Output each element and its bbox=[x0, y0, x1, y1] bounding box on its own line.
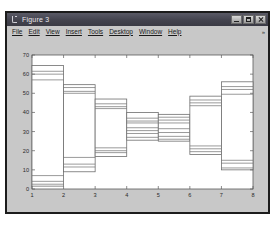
menu-item-label: Tools bbox=[88, 28, 103, 35]
boxplot-chart: 01020304050607012345678 bbox=[7, 37, 268, 212]
box-rect bbox=[158, 114, 190, 141]
title-bar[interactable]: Figure 3 bbox=[7, 13, 268, 27]
y-tick-label: 60 bbox=[23, 71, 29, 77]
minimize-button[interactable] bbox=[231, 15, 242, 24]
x-tick-label: 8 bbox=[251, 192, 254, 198]
box-5 bbox=[158, 114, 190, 141]
box-rect bbox=[32, 66, 64, 187]
box-3 bbox=[95, 99, 127, 156]
x-tick-label: 2 bbox=[62, 192, 65, 198]
menu-item-edit[interactable]: Edit bbox=[25, 28, 42, 36]
menu-item-label: View bbox=[46, 28, 60, 35]
menu-item-label: Window bbox=[139, 28, 162, 35]
y-tick-label: 40 bbox=[23, 109, 29, 115]
box-4 bbox=[127, 112, 159, 140]
y-tick-label: 30 bbox=[23, 129, 29, 135]
menu-item-label: Edit bbox=[28, 28, 39, 35]
y-tick-label: 0 bbox=[26, 186, 29, 192]
menu-item-desktop[interactable]: Desktop bbox=[106, 28, 136, 36]
maximize-icon bbox=[244, 16, 253, 23]
minimize-icon bbox=[232, 16, 241, 23]
box-1 bbox=[32, 66, 64, 187]
x-tick-label: 5 bbox=[157, 192, 160, 198]
x-tick-label: 6 bbox=[188, 192, 191, 198]
figure-canvas: 01020304050607012345678 bbox=[7, 37, 268, 212]
menu-item-insert[interactable]: Insert bbox=[63, 28, 85, 36]
box-rect bbox=[221, 82, 253, 170]
menu-item-file[interactable]: File bbox=[9, 28, 25, 36]
figure-window: Figure 3 File Edit View Insert Tools Des… bbox=[5, 11, 270, 214]
menu-item-view[interactable]: View bbox=[43, 28, 63, 36]
close-button[interactable] bbox=[255, 15, 266, 24]
y-tick-label: 20 bbox=[23, 148, 29, 154]
window-title: Figure 3 bbox=[22, 15, 231, 24]
close-icon bbox=[256, 16, 265, 23]
y-tick-label: 10 bbox=[23, 167, 29, 173]
menu-item-tools[interactable]: Tools bbox=[85, 28, 106, 36]
x-tick-label: 1 bbox=[30, 192, 33, 198]
menu-item-label: Desktop bbox=[109, 28, 133, 35]
y-tick-label: 70 bbox=[23, 52, 29, 58]
menu-item-label: Insert bbox=[66, 28, 82, 35]
box-7 bbox=[221, 82, 253, 170]
menu-item-window[interactable]: Window bbox=[136, 28, 165, 36]
box-2 bbox=[64, 85, 96, 172]
box-rect bbox=[127, 112, 159, 140]
box-6 bbox=[190, 96, 222, 154]
matlab-figure-icon bbox=[10, 15, 19, 24]
maximize-button[interactable] bbox=[243, 15, 254, 24]
x-tick-label: 7 bbox=[220, 192, 223, 198]
menu-item-label: File bbox=[12, 28, 22, 35]
box-rect bbox=[64, 85, 96, 172]
menu-item-help[interactable]: Help bbox=[165, 28, 184, 36]
menu-item-label: Help bbox=[168, 28, 181, 35]
x-tick-label: 3 bbox=[94, 192, 97, 198]
x-tick-label: 4 bbox=[125, 192, 128, 198]
y-tick-label: 50 bbox=[23, 90, 29, 96]
menu-overflow-chevron[interactable]: » bbox=[262, 29, 265, 35]
